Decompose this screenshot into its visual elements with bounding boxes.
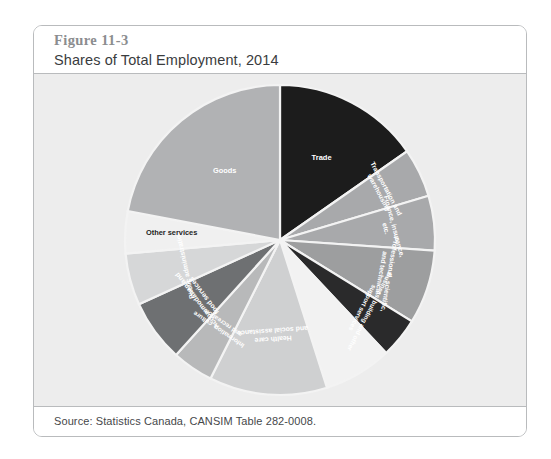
page-title: Shares of Total Employment, 2014 — [54, 50, 526, 70]
figure-footer: Source: Statistics Canada, CANSIM Table … — [34, 406, 526, 437]
figure-card: Figure 11-3 Shares of Total Employment, … — [33, 25, 527, 437]
figure-number: Figure 11-3 — [54, 30, 526, 50]
figure-header: Figure 11-3 Shares of Total Employment, … — [34, 26, 526, 74]
source-note: Source: Statistics Canada, CANSIM Table … — [54, 415, 316, 427]
pie-chart-svg: TradeTransportation andwarehousingFinanc… — [122, 82, 438, 398]
pie-slices — [125, 85, 435, 395]
pie-chart: TradeTransportation andwarehousingFinanc… — [122, 82, 438, 398]
chart-area: TradeTransportation andwarehousingFinanc… — [34, 74, 526, 406]
